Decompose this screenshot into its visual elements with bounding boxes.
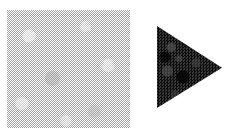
filled-square-shape [7, 10, 130, 128]
image-canvas [0, 0, 237, 133]
filled-triangle-shape [157, 26, 222, 108]
